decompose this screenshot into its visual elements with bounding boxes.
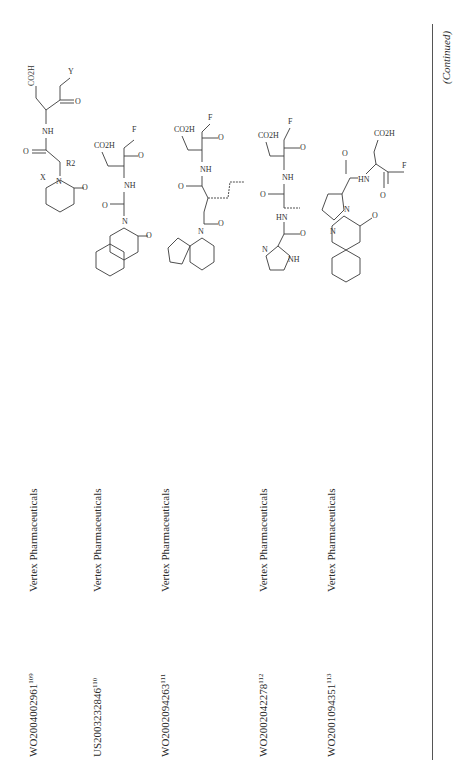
patent-number: US2003232846110 [91,678,103,757]
svg-text:NH: NH [288,255,300,264]
continued-label: (Continued) [440,31,452,84]
svg-text:O: O [260,190,266,199]
svg-text:NH: NH [124,181,136,190]
svg-text:O: O [218,133,224,142]
svg-text:O: O [23,147,29,156]
company-name: Vertex Pharmaceuticals [325,488,337,592]
chemical-structure: CO2H O Y NH O R2 N O X [18,30,88,210]
svg-text:X: X [40,173,46,182]
svg-text:O: O [102,201,108,210]
svg-text:NH: NH [200,165,212,174]
svg-text:F: F [132,125,137,134]
svg-text:F: F [402,161,407,170]
svg-text:R2: R2 [66,159,75,168]
chemical-structure: CO2H O F HN O NN O [316,122,406,292]
svg-text:O: O [300,229,306,238]
svg-text:HN: HN [276,213,288,222]
svg-text:Y: Y [68,67,74,76]
chemical-structure: CO2H F O NH O HN O NNH [254,118,324,288]
svg-text:HN: HN [358,175,370,184]
company-name: Vertex Pharmaceuticals [257,488,269,592]
company-name: Vertex Pharmaceuticals [27,488,39,592]
svg-text:N: N [198,227,204,236]
svg-text:N: N [122,217,128,226]
chemical-structure: CO2H F O NH O O N [170,112,250,292]
svg-text:N: N [344,205,350,214]
patent-number: WO2004002961109 [27,673,39,757]
chemical-structure: CO2H F O NH O N O [88,118,158,278]
svg-text:O: O [300,143,306,152]
svg-text:NH: NH [282,173,294,182]
svg-text:O: O [75,97,81,106]
svg-text:CO2H: CO2H [27,65,36,86]
svg-text:O: O [138,151,144,160]
svg-text:O: O [380,191,386,200]
svg-text:F: F [208,113,213,122]
svg-text:CO2H: CO2H [94,141,115,150]
patent-number: WO2002042278112 [257,673,269,757]
patent-number: WO2001094351113 [325,673,337,757]
svg-text:CO2H: CO2H [258,131,279,140]
svg-text:O: O [342,149,348,158]
table-bottom-rule [432,24,433,760]
company-name: Vertex Pharmaceuticals [91,488,103,592]
svg-text:NH: NH [42,127,54,136]
company-name: Vertex Pharmaceuticals [159,488,171,592]
svg-text:N: N [262,245,268,254]
svg-text:O: O [178,182,184,191]
svg-text:CO2H: CO2H [374,129,395,138]
svg-text:F: F [288,117,293,126]
svg-text:O: O [218,219,224,228]
svg-text:O: O [372,211,378,220]
svg-text:CO2H: CO2H [174,125,195,134]
patent-number: WO2002094263111 [159,674,171,757]
svg-text:O: O [146,231,152,240]
svg-text:N: N [330,227,336,236]
